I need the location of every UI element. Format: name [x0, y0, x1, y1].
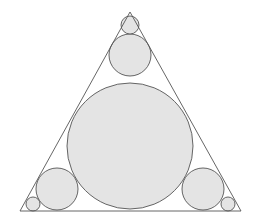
circle-top-medium — [109, 34, 151, 76]
circle-top-small — [121, 16, 139, 34]
circle-bottom-left-small — [26, 197, 40, 211]
circle-bottom-right-medium — [182, 168, 224, 210]
circle-bottom-right-small — [221, 197, 235, 211]
triangle-circle-packing-diagram — [0, 0, 254, 223]
circle-bottom-left-medium — [36, 168, 78, 210]
circle-large-center — [67, 83, 193, 209]
inscribed-circles — [26, 16, 235, 211]
